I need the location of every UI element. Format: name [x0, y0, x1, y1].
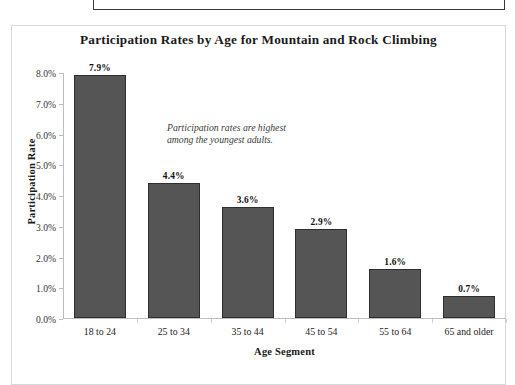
bar-value-label: 0.7% [458, 284, 480, 294]
chart-annotation: Participation rates are highest among th… [167, 122, 286, 147]
bar-value-label: 4.4% [163, 171, 185, 181]
bar-value-label: 3.6% [237, 195, 259, 205]
bar [295, 229, 347, 318]
y-axis-tick [59, 73, 63, 74]
bar [74, 75, 126, 318]
plot-area: 0.0%1.0%2.0%3.0%4.0%5.0%6.0%7.0%8.0% 7.9… [63, 73, 506, 319]
bar [222, 207, 274, 318]
x-axis-tick [137, 319, 138, 323]
y-axis-line [63, 73, 64, 319]
y-axis-tick [59, 319, 63, 320]
x-axis-tick [358, 319, 359, 323]
y-axis-tick [59, 135, 63, 136]
bar-value-label: 2.9% [310, 217, 332, 227]
chart-container: Participation Rates by Age for Mountain … [11, 25, 506, 385]
clipped-top-frame [93, 0, 505, 10]
y-axis-tick-label: 7.0% [36, 98, 56, 109]
y-axis-tick-label: 8.0% [36, 68, 56, 79]
x-axis-category-label: 45 to 54 [305, 326, 337, 337]
bar [443, 296, 495, 318]
x-axis-tick [506, 319, 507, 323]
y-axis-tick-label: 1.0% [36, 283, 56, 294]
x-axis-category-label: 25 to 34 [158, 326, 190, 337]
y-axis-tick-label: 6.0% [36, 129, 56, 140]
y-axis-tick [59, 288, 63, 289]
y-axis-tick-label: 5.0% [36, 160, 56, 171]
y-axis-tick [59, 258, 63, 259]
bar-value-label: 7.9% [89, 63, 111, 73]
y-axis-tick [59, 227, 63, 228]
y-axis-tick-label: 4.0% [36, 191, 56, 202]
x-axis-tick [432, 319, 433, 323]
x-axis-title: Age Segment [63, 346, 506, 357]
y-axis-tick-label: 3.0% [36, 221, 56, 232]
y-axis-tick-label: 2.0% [36, 252, 56, 263]
bar [369, 269, 421, 318]
y-axis-tick [59, 196, 63, 197]
y-axis-tick [59, 104, 63, 105]
x-axis-category-label: 55 to 64 [379, 326, 411, 337]
y-axis-tick-label: 0.0% [36, 314, 56, 325]
x-axis-tick [211, 319, 212, 323]
bar [148, 183, 200, 318]
x-axis-category-label: 35 to 44 [232, 326, 264, 337]
y-axis-tick [59, 165, 63, 166]
chart-title: Participation Rates by Age for Mountain … [12, 32, 505, 48]
x-axis-category-label: 18 to 24 [84, 326, 116, 337]
x-axis-category-label: 65 and older [445, 326, 494, 337]
bar-value-label: 1.6% [384, 257, 406, 267]
y-axis-title: Participation Rate [26, 127, 37, 237]
x-axis-tick [285, 319, 286, 323]
